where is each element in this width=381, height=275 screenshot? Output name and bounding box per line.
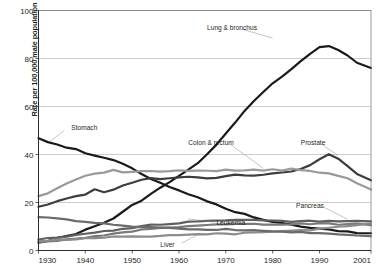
annotation-leader-line (231, 144, 264, 168)
x-tick-label: 1990 (311, 256, 329, 265)
y-tick-label: 40 (25, 151, 34, 160)
x-tick-label: 1960 (170, 256, 188, 265)
series-label-prostate: Prostate (301, 139, 326, 146)
series-label-pancreas: Pancreas (296, 202, 325, 209)
series-label-liver: Liver (160, 241, 175, 248)
y-tick-label: 100 (20, 7, 34, 16)
annotation-leader-line (181, 235, 197, 244)
y-tick-label: 60 (25, 103, 34, 112)
annotation-leader-line (324, 207, 347, 219)
x-tick-label: 2001 (353, 256, 371, 265)
x-tick-label: 1930 (39, 256, 57, 265)
y-axis-ticks: 020406080100 (20, 7, 38, 256)
y-tick-label: 0 (29, 247, 34, 256)
series-label-colon-rectum: Colon & rectum (188, 139, 234, 146)
series-label-lung-bronchus: Lung & bronchus (207, 24, 258, 32)
y-tick-label: 20 (25, 199, 34, 208)
series-line (39, 138, 372, 233)
cancer-death-rate-chart: Rate per 100,000 male population 1930194… (0, 0, 381, 275)
series-line (39, 154, 372, 207)
x-tick-label: 1950 (123, 256, 141, 265)
x-tick-label: 1940 (76, 256, 94, 265)
annotation-leader-line (50, 131, 64, 142)
series-label-leukemia: Leukemia (216, 219, 245, 226)
series-label-stomach: Stomach (71, 124, 97, 131)
y-tick-label: 80 (25, 55, 34, 64)
x-axis-ticks: 19301940195019601970198019902001 (39, 251, 372, 265)
series-annotations: Lung & bronchusStomachProstateColon & re… (50, 24, 347, 248)
x-tick-label: 1970 (217, 256, 235, 265)
x-tick-label: 1980 (264, 256, 282, 265)
chart-plot-area: 19301940195019601970198019902001 0204060… (0, 0, 381, 275)
